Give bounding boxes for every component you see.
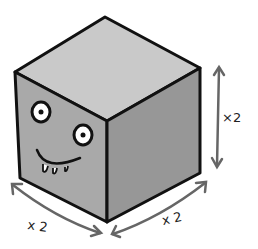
cube-illustration: ×2 x 2 x 2 xyxy=(0,0,258,249)
left-width-label: x 2 xyxy=(27,217,49,235)
height-label: ×2 xyxy=(222,110,241,125)
right-width-label: x 2 xyxy=(161,209,184,228)
